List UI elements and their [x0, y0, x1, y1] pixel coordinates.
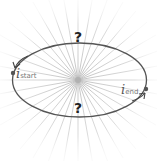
end-label: iend: [121, 79, 138, 98]
start-label-subscript: start: [20, 72, 36, 80]
radial-line: [78, 49, 157, 80]
radial-line: [0, 49, 78, 80]
radial-line: [0, 80, 78, 111]
center-point: [75, 77, 81, 83]
radial-line: [62, 80, 78, 161]
end-point: [144, 87, 148, 91]
top-question-mark: ?: [74, 30, 82, 44]
start-label: istart: [16, 63, 36, 82]
radial-line: [78, 80, 109, 161]
radial-line: [47, 80, 78, 161]
radial-line: [78, 80, 94, 161]
bottom-question-mark: ?: [74, 101, 82, 115]
radial-line: [78, 0, 109, 80]
start-point: [11, 71, 15, 75]
diagram-canvas: istart iend ? ?: [0, 0, 157, 161]
end-label-subscript: end: [125, 88, 138, 96]
